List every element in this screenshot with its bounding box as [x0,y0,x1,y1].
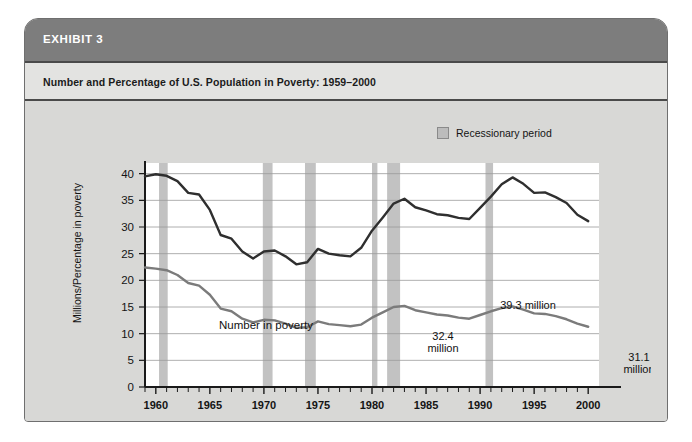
x-axis-tick-label: 2000 [576,399,600,411]
recession-band [387,163,400,387]
y-axis-tick-label: 35 [121,194,134,206]
legend-label-recessionary-period: Recessionary period [456,127,552,139]
annotation-text: million [623,363,651,375]
recession-band [159,163,168,387]
series-label-number-in-poverty: Number in poverty [219,319,313,331]
poverty-line-chart: 0510152025303540196019651970197519801985… [43,149,651,419]
exhibit-number-label: EXHIBIT 3 [43,33,103,45]
annotation-text: 32.4 [432,330,453,342]
x-axis-tick-label: 1975 [306,399,330,411]
y-axis-tick-label: 40 [121,168,134,180]
recession-period-swatch-icon [437,127,449,139]
x-axis-tick-label: 1980 [360,399,384,411]
x-axis-tick-label: 1985 [414,399,438,411]
exhibit-body: Recessionary period Millions/Percentage … [25,101,667,421]
x-axis-tick-label: 1995 [522,399,546,411]
y-axis-tick-label: 30 [121,221,134,233]
x-axis-tick-label: 1990 [468,399,492,411]
y-axis-tick-label: 20 [121,274,134,286]
exhibit-header-band: EXHIBIT 3 [25,19,667,63]
y-axis-tick-label: 5 [128,354,134,366]
x-axis-tick-label: 1970 [252,399,276,411]
exhibit-card: EXHIBIT 3 Number and Percentage of U.S. … [24,18,668,422]
data-annotation: 39.3 million [500,299,556,311]
chart-legend: Recessionary period [437,127,552,139]
annotation-text: million [427,342,458,354]
y-axis-tick-label: 10 [121,328,134,340]
y-axis-tick-label: 25 [121,248,134,260]
data-annotation: 31.1million [623,351,651,375]
y-axis-tick-label: 0 [128,381,134,393]
exhibit-subtitle-band: Number and Percentage of U.S. Population… [25,63,667,101]
x-axis-tick-label: 1965 [198,399,222,411]
annotation-text: 31.1 [628,351,649,363]
recession-band [263,163,273,387]
annotation-text: 39.3 million [500,299,556,311]
exhibit-screenshot: EXHIBIT 3 Number and Percentage of U.S. … [0,0,692,442]
y-axis-tick-label: 15 [121,301,134,313]
recession-band [372,163,377,387]
x-axis-tick-label: 1960 [144,399,168,411]
chart-plot-area: Millions/Percentage in poverty 051015202… [43,149,651,419]
recession-band [305,163,316,387]
exhibit-title: Number and Percentage of U.S. Population… [43,76,376,88]
